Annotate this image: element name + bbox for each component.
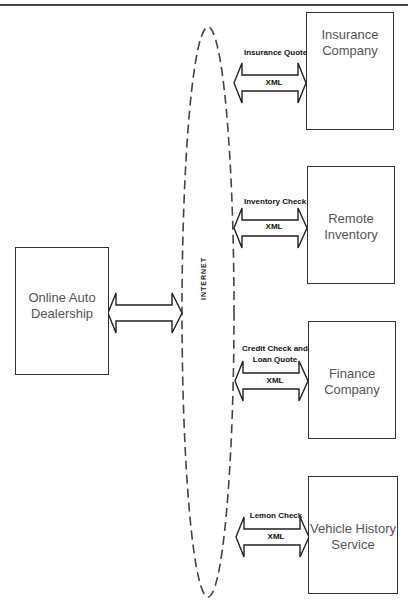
inventory-format-label: XML xyxy=(244,222,304,232)
finance-message-label-line1: Credit Check and xyxy=(240,344,310,354)
dealership-label-line1: Online Auto xyxy=(16,290,108,306)
vehicle-history-label-line2: Service xyxy=(309,537,397,553)
insurance-message-label: Insurance Quote xyxy=(244,48,304,58)
finance-format-label: XML xyxy=(245,376,305,386)
finance-label-line1: Finance xyxy=(309,366,395,382)
finance-label-line2: Company xyxy=(309,382,395,398)
vehicle-history-service-box: Vehicle History Service xyxy=(308,476,398,594)
inventory-label-line1: Remote xyxy=(308,211,394,227)
insurance-company-box: Insurance Company xyxy=(306,12,394,130)
remote-inventory-box: Remote Inventory xyxy=(307,166,395,284)
online-auto-dealership-box: Online Auto Dealership xyxy=(15,247,109,375)
finance-message-label-line2: Loan Quote xyxy=(240,355,310,365)
internet-cloud xyxy=(182,27,234,597)
vehicle-history-format-label: XML xyxy=(246,532,306,542)
insurance-format-label: XML xyxy=(244,78,304,88)
internet-label: INTERNET xyxy=(200,257,207,300)
insurance-label-line1: Insurance xyxy=(307,27,393,43)
insurance-label-line2: Company xyxy=(307,43,393,59)
vehicle-history-label-line1: Vehicle History xyxy=(309,521,397,537)
inventory-label-line2: Inventory xyxy=(308,227,394,243)
dealership-label-line2: Dealership xyxy=(16,306,108,322)
dealership-internet-arrow-icon xyxy=(108,293,182,333)
inventory-message-label: Inventory Check xyxy=(244,197,304,207)
finance-company-box: Finance Company xyxy=(308,321,396,439)
vehicle-history-message-label: Lemon Check xyxy=(246,511,306,521)
